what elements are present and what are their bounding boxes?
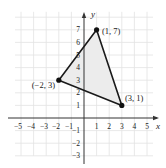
y-axis-arrow-icon	[82, 12, 86, 18]
y-tick: −2	[72, 139, 80, 148]
vertex-point-neg2-3	[56, 78, 61, 83]
x-tick: 1	[95, 122, 99, 131]
vertex-label-1-7: (1, 7)	[102, 26, 121, 36]
coordinate-plane: −5 −4 −3 −2 −1 1 2 3 4 5 x 1 2 3 4 5 6 7…	[0, 0, 166, 168]
y-tick: 5	[76, 51, 80, 60]
x-tick: 2	[107, 122, 111, 131]
x-axis-arrow-icon	[153, 116, 159, 120]
x-tick: −4	[27, 122, 35, 131]
y-tick: 3	[76, 76, 80, 85]
x-tick: −5	[14, 122, 22, 131]
x-tick: 3	[120, 122, 124, 131]
y-tick: 1	[76, 101, 80, 110]
y-axis-label: y	[90, 9, 95, 19]
vertex-label-neg2-3: (−2, 3)	[32, 80, 55, 90]
y-tick: 4	[76, 63, 80, 72]
x-tick-labels: −5 −4 −3 −2 −1 1 2 3 4 5	[14, 122, 149, 131]
x-tick: 4	[133, 122, 137, 131]
y-tick: 7	[76, 25, 80, 34]
vertex-point-1-7	[94, 27, 99, 32]
y-tick: 6	[76, 38, 80, 47]
y-tick: −1	[72, 126, 80, 135]
y-tick: 2	[76, 88, 80, 97]
x-tick: −3	[40, 122, 48, 131]
x-axis-label: x	[155, 121, 160, 131]
y-tick: −3	[72, 151, 80, 160]
vertex-point-3-1	[119, 103, 124, 108]
axes	[8, 12, 159, 164]
x-tick: 5	[145, 122, 149, 131]
vertex-label-3-1: (3, 1)	[125, 93, 144, 103]
x-tick: −2	[52, 122, 60, 131]
